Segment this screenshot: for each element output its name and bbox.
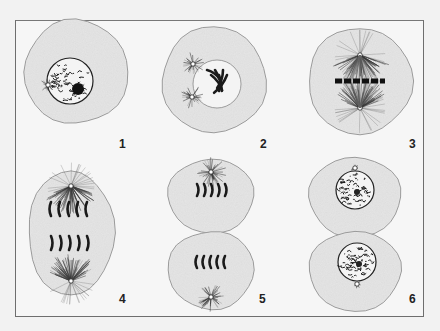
- chromosome: [224, 256, 226, 268]
- chromosome: [86, 202, 88, 216]
- stage-label-5: 5: [259, 292, 266, 306]
- centriole: [190, 95, 194, 99]
- mitosis-diagram: [0, 0, 440, 331]
- nucleolus: [356, 261, 362, 267]
- chromosome: [204, 184, 206, 196]
- nucleolus: [72, 83, 84, 95]
- cells-layer: [24, 19, 414, 312]
- stage-1-interphase: [24, 19, 128, 123]
- centriole: [209, 170, 213, 174]
- chromosome: [210, 256, 212, 268]
- stage-label-2: 2: [260, 137, 267, 151]
- stage-label-3: 3: [409, 137, 416, 151]
- centriole: [355, 282, 359, 286]
- chromosome: [60, 236, 62, 250]
- stage-label-1: 1: [119, 137, 126, 151]
- stage-label-6: 6: [409, 292, 416, 306]
- stage-label-4: 4: [119, 292, 126, 306]
- chromosome: [51, 236, 53, 250]
- centriole: [46, 83, 50, 87]
- chromosome: [196, 256, 198, 268]
- chromosome: [218, 184, 220, 196]
- chromosome: [203, 256, 205, 268]
- chromosome: [77, 202, 79, 216]
- centriole: [69, 279, 73, 283]
- chromosome: [225, 184, 227, 196]
- centriole: [353, 166, 357, 170]
- chromosome: [197, 184, 199, 196]
- chromosome: [87, 236, 89, 250]
- centriole: [69, 184, 73, 188]
- chromosome: [68, 202, 70, 216]
- nucleus: [193, 60, 241, 108]
- chromosome: [217, 256, 219, 268]
- stage-5-telophase: [168, 157, 254, 311]
- stage-3-metaphase: [310, 29, 414, 135]
- stage-4-anaphase: [29, 163, 115, 305]
- chromosome: [69, 236, 71, 250]
- stage-6-cytokinesis: [309, 157, 402, 311]
- nucleolus: [354, 189, 360, 195]
- centriole: [191, 62, 195, 66]
- stage-2-prophase: [162, 27, 266, 133]
- chromosome: [59, 202, 61, 216]
- chromosome: [78, 236, 80, 250]
- chromosome: [211, 184, 213, 196]
- chromosome: [50, 202, 52, 216]
- centriole: [209, 295, 213, 299]
